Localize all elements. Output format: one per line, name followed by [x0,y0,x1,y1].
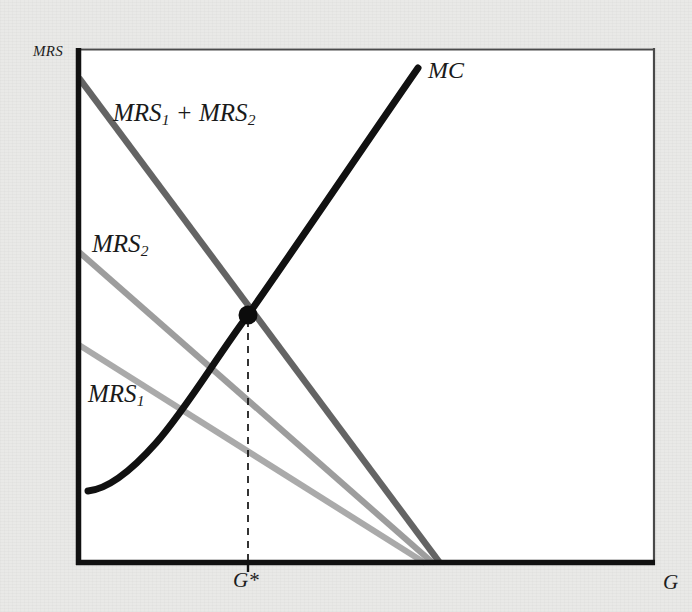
mrs1-curve-label-sub: 1 [137,392,145,409]
sum-mrs-curve-label-text2: MRS [199,99,248,126]
equilibrium-point [239,306,258,325]
y-axis-label: MRS [33,44,63,59]
x-axis-tick-label: G* [233,570,259,591]
mrs2-curve-label: MRS2 [92,231,149,256]
x-axis-label: G [663,572,678,593]
sum-mrs-curve-label-text1: MRS [113,99,162,126]
mrs2-curve-label-text: MRS [92,230,141,257]
sum-mrs-curve-label-sub1: 1 [162,111,170,128]
mc-curve-label: MC [428,58,464,82]
mrs1-curve-label: MRS1 [88,381,145,406]
sum-mrs-curve-label-sub2: 2 [248,111,256,128]
mrs2-curve-label-sub: 2 [141,242,149,259]
sum-mrs-curve-label: MRS1 + MRS2 [113,100,255,125]
economics-figure [0,0,692,612]
sum-mrs-curve-label-plus: + [170,99,199,126]
mrs1-curve-label-text: MRS [88,380,137,407]
